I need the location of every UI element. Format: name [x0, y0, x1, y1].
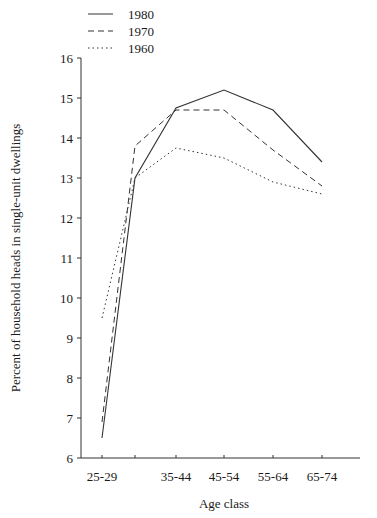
chart-axes: 67891011121314151625-2935-4445-5455-6465… [60, 51, 360, 484]
y-tick-label: 11 [60, 251, 73, 266]
y-tick-label: 10 [60, 291, 73, 306]
series-line-1960 [102, 148, 322, 318]
legend-label-1960: 1960 [128, 41, 154, 56]
series-line-1970 [102, 110, 322, 422]
y-tick-label: 8 [67, 371, 74, 386]
y-tick-label: 13 [60, 171, 73, 186]
chart-series [102, 90, 322, 438]
legend-label-1980: 1980 [128, 7, 154, 22]
y-tick-label: 14 [60, 131, 74, 146]
series-line-1980 [102, 90, 322, 438]
y-axis-title: Percent of household heads in single-uni… [8, 124, 23, 393]
line-chart: 198019701960 67891011121314151625-2935-4… [0, 0, 377, 518]
y-tick-label: 9 [67, 331, 74, 346]
y-tick-label: 12 [60, 211, 73, 226]
chart-legend: 198019701960 [88, 7, 154, 56]
x-tick-label: 65-74 [307, 469, 338, 484]
x-axis-title: Age class [199, 496, 249, 511]
y-tick-label: 16 [60, 51, 74, 66]
y-tick-label: 15 [60, 91, 73, 106]
y-tick-label: 7 [67, 411, 74, 426]
x-tick-label: 25-29 [87, 469, 117, 484]
x-tick-label: 55-64 [258, 469, 289, 484]
y-tick-label: 6 [67, 451, 74, 466]
x-tick-label: 45-54 [209, 469, 240, 484]
legend-label-1970: 1970 [128, 24, 154, 39]
x-tick-label: 35-44 [161, 469, 192, 484]
